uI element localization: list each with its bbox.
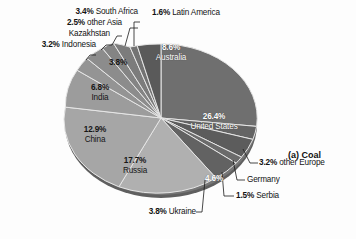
label-india: 6.8% India — [73, 83, 127, 102]
label-china-pct: 12.9% — [84, 125, 106, 134]
label-south-africa-name: South Africa — [96, 7, 138, 16]
label-indonesia-pct: 3.2% — [42, 40, 60, 49]
label-serbia-name: Serbia — [256, 191, 279, 200]
label-indonesia-name: Indonesia — [62, 40, 96, 49]
label-other-asia-pct: 2.5% — [67, 18, 85, 27]
label-serbia: 1.5% Serbia — [236, 191, 279, 201]
label-latin-america: 1.6% Latin America — [152, 8, 220, 18]
label-kazakhstan-wedge: 3.8% — [100, 58, 136, 68]
label-kazakhstan-name: Kazakhstan — [69, 29, 110, 38]
label-united-states: 26.4% United States — [176, 112, 252, 131]
label-germany: Germany — [247, 175, 280, 185]
label-other-asia-name: other Asia — [87, 18, 122, 27]
label-kazakhstan: Kazakhstan — [6, 29, 110, 39]
label-germany-wedge-pct: 4.6% — [205, 174, 223, 183]
label-russia: 17.7% Russia — [104, 156, 166, 175]
label-kazakhstan-wedge-pct: 3.8% — [109, 58, 127, 67]
label-latin-america-pct: 1.6% — [152, 8, 170, 17]
label-south-africa: 3.4% South Africa — [12, 7, 138, 17]
label-germany-name: Germany — [247, 175, 280, 184]
label-united-states-name: United States — [190, 122, 237, 131]
label-russia-name: Russia — [123, 166, 147, 175]
label-united-states-pct: 26.4% — [203, 112, 225, 121]
leader-line-south-africa — [125, 28, 138, 46]
label-south-africa-pct: 3.4% — [75, 7, 93, 16]
pie-chart-figure: 3.4% South Africa 2.5% other Asia Kazakh… — [0, 0, 356, 239]
label-india-name: India — [91, 93, 108, 102]
label-ukraine-name: Ukraine — [169, 207, 196, 216]
label-other-asia: 2.5% other Asia — [6, 18, 122, 28]
label-australia: 8.6% Australia — [140, 43, 202, 62]
figure-caption: (a) Coal — [288, 150, 321, 160]
label-other-europe-pct: 3.2% — [259, 158, 277, 167]
label-ukraine-pct: 3.8% — [149, 207, 167, 216]
label-china-name: China — [85, 135, 106, 144]
label-indonesia: 3.2% Indonesia — [2, 40, 96, 50]
label-serbia-pct: 1.5% — [236, 191, 254, 200]
label-australia-name: Australia — [156, 53, 187, 62]
label-ukraine: 3.8% Ukraine — [96, 207, 196, 217]
label-china: 12.9% China — [64, 125, 126, 144]
label-india-pct: 6.8% — [91, 83, 109, 92]
label-latin-america-name: Latin America — [172, 8, 220, 17]
label-germany-wedge: 4.6% — [194, 174, 234, 184]
label-russia-pct: 17.7% — [124, 156, 146, 165]
label-australia-pct: 8.6% — [162, 43, 180, 52]
